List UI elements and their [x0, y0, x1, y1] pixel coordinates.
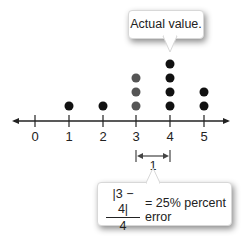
interval-right-arrow-icon [163, 153, 169, 159]
fraction-numerator: |3 − 4| [106, 187, 140, 218]
equation-text: = 25% percent error [145, 196, 231, 224]
tick-labels: 0 1 2 3 4 5 [31, 129, 207, 144]
left-arrow-icon [12, 118, 19, 124]
tick-label: 5 [200, 129, 207, 144]
tick-label: 4 [166, 129, 173, 144]
callout-text: Actual value. [130, 17, 202, 31]
percent-error-callout: |3 − 4| 4 = 25% percent error [97, 182, 232, 226]
dots [65, 60, 209, 111]
interval-label: 1 [150, 159, 157, 173]
interval-left-arrow-icon [137, 153, 143, 159]
tick-label: 2 [99, 129, 106, 144]
tick-label: 0 [31, 129, 38, 144]
tick-label: 1 [65, 129, 72, 144]
actual-value-callout: Actual value. [128, 10, 204, 39]
fraction-denominator: 4 [106, 218, 140, 234]
right-arrow-icon [223, 118, 230, 124]
fraction: |3 − 4| 4 [106, 187, 140, 234]
tick-label: 3 [132, 129, 139, 144]
